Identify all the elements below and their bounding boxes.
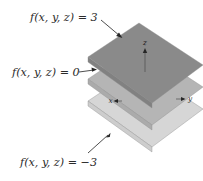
label-level-bottom: f(x, y, z) = −3 — [19, 156, 97, 169]
axis-label-y: y — [187, 94, 193, 103]
figure-canvas: z x y f(x, y, z) = 3 f(x, y, z) = — [0, 0, 203, 181]
leader-line-bottom — [88, 135, 108, 153]
leader-line-middle — [79, 70, 94, 72]
leader-level-middle — [79, 67, 97, 72]
leader-level-bottom — [88, 133, 111, 153]
label-level-top: f(x, y, z) = 3 — [29, 11, 98, 24]
axis-label-z: z — [142, 38, 147, 47]
leader-line-top — [101, 20, 120, 36]
leader-arrowhead-bottom — [106, 133, 111, 138]
level-surfaces-figure: z x y f(x, y, z) = 3 f(x, y, z) = — [0, 0, 203, 181]
label-level-middle: f(x, y, z) = 0 — [11, 66, 80, 79]
leader-level-top — [101, 20, 122, 38]
